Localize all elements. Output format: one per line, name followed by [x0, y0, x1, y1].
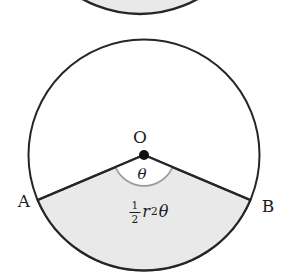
fraction-numerator: 1 [130, 200, 141, 213]
point-b-label: B [262, 198, 275, 215]
radius-variable: r [142, 204, 150, 220]
formula-theta: θ [159, 204, 169, 220]
point-a-label: A [18, 193, 30, 210]
sector-area-formula: 1 2 r 2 θ [130, 200, 169, 224]
fraction-one-half: 1 2 [130, 200, 141, 224]
previous-figure-partial-circle [22, 0, 258, 14]
center-label: O [133, 129, 147, 146]
fraction-denominator: 2 [132, 213, 139, 225]
center-dot [139, 150, 149, 160]
angle-label: θ [137, 167, 146, 182]
sector-area-diagram: O θ A B 1 2 r 2 θ [0, 0, 289, 280]
